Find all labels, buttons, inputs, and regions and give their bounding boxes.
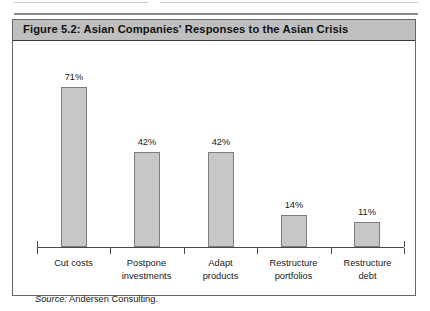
bar-value-label: 42% — [191, 137, 251, 147]
category-label-line: portfolios — [257, 270, 330, 283]
category-tick — [37, 248, 38, 254]
bar-value-label: 14% — [264, 200, 324, 210]
figure-title: Figure 5.2: Asian Companies' Responses t… — [23, 23, 348, 35]
category-label: Restructureportfolios — [257, 257, 330, 282]
bar-value-label: 71% — [44, 72, 104, 82]
bar — [61, 87, 87, 247]
page-rule-top — [14, 2, 418, 3]
bar — [208, 152, 234, 247]
source-note: Source: Andersen Consulting. — [35, 294, 158, 304]
axis-end-tick — [404, 241, 405, 247]
category-label: Restructuredebt — [331, 257, 404, 282]
category-label-line: Restructure — [257, 257, 330, 270]
category-label-line: investments — [110, 270, 183, 283]
source-value: Andersen Consulting. — [67, 294, 158, 304]
bar — [281, 215, 307, 247]
category-tick — [110, 248, 111, 254]
source-label: Source: — [35, 294, 67, 304]
figure-frame: Figure 5.2: Asian Companies' Responses t… — [12, 19, 416, 296]
bar-value-label: 11% — [337, 207, 397, 217]
category-label-line: products — [184, 270, 257, 283]
bar — [134, 152, 160, 247]
category-label-line: Restructure — [331, 257, 404, 270]
bar — [354, 222, 380, 247]
category-tick — [184, 248, 185, 254]
figure-titlebar: Figure 5.2: Asian Companies' Responses t… — [13, 20, 415, 41]
category-label: Cut costs — [37, 257, 110, 270]
category-label-line: Cut costs — [37, 257, 110, 270]
category-label: Adaptproducts — [184, 257, 257, 282]
category-tick — [331, 248, 332, 254]
category-label-line: Postpone — [110, 257, 183, 270]
category-label-line: debt — [331, 270, 404, 283]
chart-plot-area: 71%42%42%14%11% Source: Andersen Consult… — [13, 41, 415, 295]
category-label: Postponeinvestments — [110, 257, 183, 282]
bar-value-label: 42% — [117, 137, 177, 147]
category-tick — [404, 248, 405, 254]
page-rule-header — [14, 13, 418, 15]
x-axis-line — [37, 247, 404, 248]
category-tick — [257, 248, 258, 254]
page-mark — [148, 0, 160, 6]
category-label-line: Adapt — [184, 257, 257, 270]
